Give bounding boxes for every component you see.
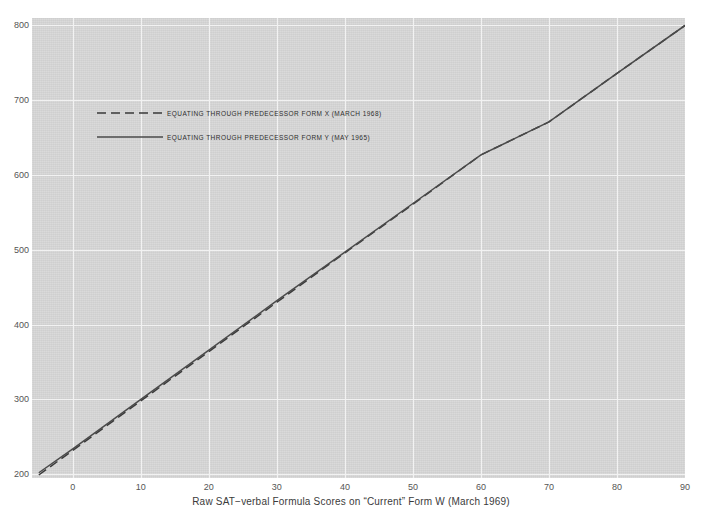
chart-figure: · · · · · · · · · · 20030040050060070080…: [0, 0, 702, 514]
series-line-0: [39, 25, 685, 475]
x-tick-label-20: 20: [189, 482, 229, 492]
series-lines: [32, 18, 685, 478]
x-tick-label-30: 30: [257, 482, 297, 492]
scan-header-text: · · · · · · · · · ·: [0, 0, 702, 4]
x-tick-label-10: 10: [121, 482, 161, 492]
legend-label-1: EQUATING THROUGH PREDECESSOR FORM Y (MAY…: [167, 134, 370, 141]
y-tick-label-200: 200: [1, 469, 29, 479]
y-axis-ticks: 200300400500600700800: [0, 18, 29, 478]
y-tick-label-700: 700: [1, 95, 29, 105]
legend-swatch-dashed-icon: [97, 108, 163, 118]
legend-item-1: EQUATING THROUGH PREDECESSOR FORM Y (MAY…: [97, 125, 427, 149]
y-tick-label-300: 300: [1, 394, 29, 404]
x-axis-ticks: 0102030405060708090: [32, 482, 685, 496]
legend-swatch-solid-icon: [97, 132, 163, 142]
x-tick-label-90: 90: [665, 482, 702, 492]
x-tick-label-50: 50: [393, 482, 433, 492]
legend-item-0: EQUATING THROUGH PREDECESSOR FORM X (MAR…: [97, 101, 427, 125]
legend-label-0: EQUATING THROUGH PREDECESSOR FORM X (MAR…: [167, 110, 382, 117]
x-tick-label-60: 60: [461, 482, 501, 492]
plot-area: [32, 18, 685, 478]
x-tick-label-80: 80: [597, 482, 637, 492]
y-tick-label-500: 500: [1, 245, 29, 255]
x-tick-label-0: 0: [53, 482, 93, 492]
y-tick-label-400: 400: [1, 320, 29, 330]
x-tick-label-40: 40: [325, 482, 365, 492]
x-axis-title: Raw SAT−verbal Formula Scores on “Curren…: [0, 496, 702, 507]
series-line-1: [39, 25, 685, 472]
y-tick-label-800: 800: [1, 20, 29, 30]
y-tick-label-600: 600: [1, 170, 29, 180]
x-tick-label-70: 70: [529, 482, 569, 492]
chart-legend: EQUATING THROUGH PREDECESSOR FORM X (MAR…: [97, 101, 427, 149]
